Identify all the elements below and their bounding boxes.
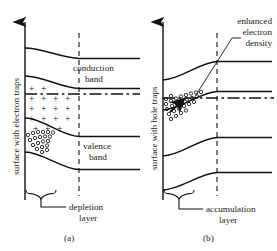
panel-a-vacuum-level xyxy=(25,48,140,59)
svg-text:+: + xyxy=(29,94,34,104)
panel-a-lower-band xyxy=(25,152,140,170)
svg-text:+: + xyxy=(65,104,70,114)
svg-text:+: + xyxy=(53,94,58,104)
panel-b-annotation-line-3: density xyxy=(245,38,272,48)
svg-text:+: + xyxy=(65,94,70,104)
panel-a-depletion-leader xyxy=(41,199,66,207)
panel-a-conduction-label-1: conduction xyxy=(73,63,114,73)
panel-b-enhancement-arrow xyxy=(170,99,184,112)
panel-b-axis-label: surface with hole traps xyxy=(149,86,159,170)
svg-text:+: + xyxy=(41,114,46,124)
svg-text:+: + xyxy=(53,104,58,114)
panel-a-conduction-label-2: band xyxy=(85,74,103,84)
panel-b-region-label-2: layer xyxy=(219,215,237,225)
panel-b: surface with hole traps xyxy=(149,16,274,243)
panel-b-accumulation-brace xyxy=(164,190,194,199)
svg-text:+: + xyxy=(29,114,34,124)
panel-b-annotation-line-2: electron xyxy=(242,27,272,37)
panel-b-accumulation-leader xyxy=(179,199,203,209)
panel-a-valence-label-2: band xyxy=(89,152,107,162)
svg-text:+: + xyxy=(33,124,38,134)
band-diagram-svg: surface with electron traps ++ ++++ ++++… xyxy=(0,0,277,251)
panel-a: surface with electron traps ++ ++++ ++++… xyxy=(11,22,140,243)
panel-a-caption: (a) xyxy=(64,233,74,243)
panel-b-caption: (b) xyxy=(203,233,214,243)
panel-b-electron-stipple xyxy=(164,90,202,120)
panel-a-region-label-1: depletion xyxy=(69,202,104,212)
panel-a-positive-charge-region: ++ ++++ ++++ ++++ +++ xyxy=(29,84,70,134)
panel-b-annotation-line-1: enhanced xyxy=(237,16,272,26)
panel-a-region-label-2: layer xyxy=(79,213,97,223)
band-diagram-figure: surface with electron traps ++ ++++ ++++… xyxy=(0,0,277,251)
svg-text:+: + xyxy=(41,84,46,94)
svg-text:+: + xyxy=(29,84,34,94)
panel-b-region-label-1: accumulation xyxy=(206,204,256,214)
svg-text:+: + xyxy=(29,104,34,114)
panel-b-annotation-leader xyxy=(196,38,232,95)
panel-a-axis-label: surface with electron traps xyxy=(11,77,21,175)
panel-a-valence-label-1: valence xyxy=(83,141,111,151)
svg-text:+: + xyxy=(65,114,70,124)
svg-text:+: + xyxy=(41,104,46,114)
svg-text:+: + xyxy=(41,94,46,104)
panel-a-depletion-brace xyxy=(26,190,56,199)
svg-text:+: + xyxy=(57,124,62,134)
svg-text:+: + xyxy=(53,114,58,124)
panel-a-hole-stipple xyxy=(26,130,54,153)
